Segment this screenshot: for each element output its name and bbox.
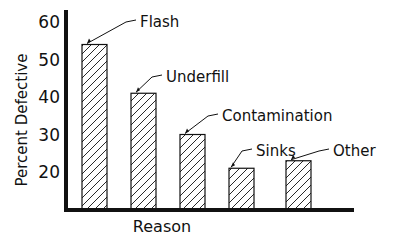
bar-rect [131,93,156,210]
y-tick-label: 60 [38,12,60,32]
bars: FlashUnderfillContaminationSinksOther [82,13,376,210]
leader-line [136,75,162,92]
y-tick-label: 30 [38,125,60,145]
bar-rect [286,161,311,210]
arrow-icon [136,87,140,92]
x-axis-label: Reason [133,217,191,236]
y-tick-label: 50 [38,50,60,70]
category-label: Other [333,142,376,160]
y-tick-label: 20 [38,162,60,182]
category-label: Underfill [166,68,229,86]
arrow-icon [185,129,189,134]
category-label: Sinks [256,142,296,160]
leader-line [87,20,136,44]
category-label: Contamination [222,107,332,125]
leader-line [291,149,329,160]
bar-rect [229,168,254,210]
y-tick-label: 40 [38,87,60,107]
category-label: Flash [140,13,179,31]
bar-rect [82,45,107,211]
pareto-bar-chart: 2030405060 Percent Defective FlashUnderf… [0,0,398,241]
y-axis-ticks: 2030405060 [38,12,60,182]
leader-line [185,114,218,134]
bar-other: Other [286,142,376,210]
y-axis-label: Percent Defective [13,54,31,187]
bar-rect [180,135,205,211]
